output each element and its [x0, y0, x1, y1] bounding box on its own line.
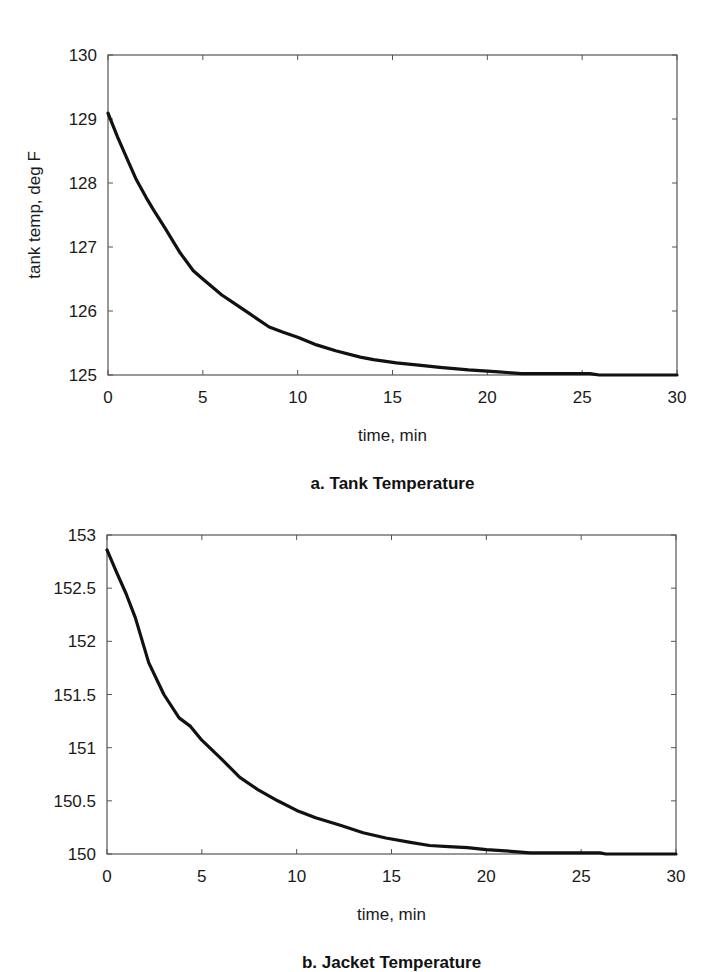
y-axis-label: tank temp, deg F [25, 151, 44, 279]
y-tick-label: 130 [69, 46, 97, 65]
y-tick-label: 127 [69, 238, 97, 257]
plot-frame [107, 535, 676, 854]
x-tick-label: 20 [477, 867, 496, 886]
x-tick-label: 15 [383, 388, 402, 407]
x-tick-label: 30 [667, 867, 686, 886]
jacket-temperature-chart: 051015202530 150150.5151151.5152152.5153… [53, 526, 685, 972]
x-tick-label: 15 [382, 867, 401, 886]
x-tick-label: 25 [572, 867, 591, 886]
y-tick-label: 128 [69, 174, 97, 193]
x-tick-label: 10 [288, 388, 307, 407]
y-tick-label: 150 [68, 845, 96, 864]
y-tick-label: 152 [68, 632, 96, 651]
x-tick-label: 0 [103, 388, 112, 407]
y-tick-label: 153 [68, 526, 96, 545]
x-tick-label: 25 [573, 388, 592, 407]
tank-temperature-line [108, 113, 677, 375]
y-tick-label: 129 [69, 110, 97, 129]
chart-caption: a. Tank Temperature [311, 474, 475, 493]
tank-temperature-chart: 051015202530 125126127128129130 time, mi… [25, 46, 686, 493]
y-tick-label: 125 [69, 366, 97, 385]
x-tick-label: 30 [668, 388, 687, 407]
x-tick-label: 10 [287, 867, 306, 886]
y-ticks: 150150.5151151.5152152.5153 [53, 526, 676, 864]
x-tick-label: 0 [102, 867, 111, 886]
x-tick-label: 5 [198, 388, 207, 407]
x-ticks: 051015202530 [102, 535, 685, 886]
y-tick-label: 151.5 [53, 686, 96, 705]
chart-caption: b. Jacket Temperature [302, 953, 481, 972]
x-ticks: 051015202530 [103, 55, 686, 407]
x-axis-label: time, min [357, 905, 426, 924]
x-axis-label: time, min [358, 426, 427, 445]
y-tick-label: 152.5 [53, 579, 96, 598]
jacket-temperature-line [107, 550, 676, 854]
y-tick-label: 151 [68, 739, 96, 758]
y-ticks: 125126127128129130 [69, 46, 677, 385]
plot-frame [108, 55, 677, 375]
y-tick-label: 126 [69, 302, 97, 321]
y-tick-label: 150.5 [53, 792, 96, 811]
figure: 051015202530 125126127128129130 time, mi… [0, 0, 718, 972]
x-tick-label: 5 [197, 867, 206, 886]
x-tick-label: 20 [478, 388, 497, 407]
